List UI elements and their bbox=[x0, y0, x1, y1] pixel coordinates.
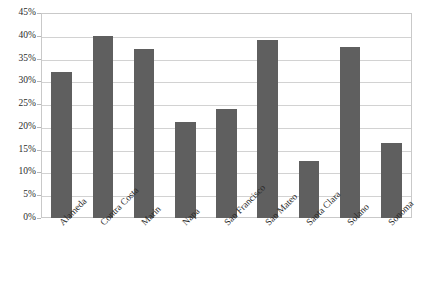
y-axis-tick-label: 0% bbox=[0, 213, 36, 223]
bar-slot bbox=[206, 13, 247, 218]
y-axis-tick-mark bbox=[37, 218, 41, 219]
y-axis-tick-label: 5% bbox=[0, 190, 36, 200]
y-axis-tick-mark bbox=[37, 150, 41, 151]
y-axis-tick-label: 10% bbox=[0, 167, 36, 177]
bars-layer bbox=[41, 13, 412, 218]
bar[interactable] bbox=[216, 109, 237, 218]
bar-slot bbox=[247, 13, 288, 218]
y-axis-tick-label: 40% bbox=[0, 31, 36, 41]
y-axis-tick-label: 20% bbox=[0, 122, 36, 132]
y-axis-tick-mark bbox=[37, 81, 41, 82]
bar[interactable] bbox=[340, 47, 361, 218]
y-axis-tick-mark bbox=[37, 172, 41, 173]
y-axis-tick-label: 35% bbox=[0, 54, 36, 64]
y-axis-tick-label: 45% bbox=[0, 8, 36, 18]
bar-slot bbox=[371, 13, 412, 218]
bar-slot bbox=[330, 13, 371, 218]
bar-slot bbox=[165, 13, 206, 218]
bar-slot bbox=[82, 13, 123, 218]
bar-slot bbox=[288, 13, 329, 218]
bar[interactable] bbox=[51, 72, 72, 218]
y-axis-tick-mark bbox=[37, 127, 41, 128]
x-axis: AlamedaContra CostaMarinNapaSan Francisc… bbox=[41, 219, 412, 288]
bar[interactable] bbox=[175, 122, 196, 218]
y-axis-tick-mark bbox=[37, 36, 41, 37]
y-axis-tick-label: 15% bbox=[0, 145, 36, 155]
y-axis-tick-mark bbox=[37, 195, 41, 196]
bar[interactable] bbox=[93, 36, 114, 218]
y-axis-tick-label: 25% bbox=[0, 99, 36, 109]
y-axis-tick-label: 30% bbox=[0, 76, 36, 86]
y-axis-tick-mark bbox=[37, 104, 41, 105]
y-axis-tick-mark bbox=[37, 13, 41, 14]
bar-slot bbox=[41, 13, 82, 218]
bar-chart: AlamedaContra CostaMarinNapaSan Francisc… bbox=[0, 0, 422, 288]
y-axis-tick-mark bbox=[37, 59, 41, 60]
